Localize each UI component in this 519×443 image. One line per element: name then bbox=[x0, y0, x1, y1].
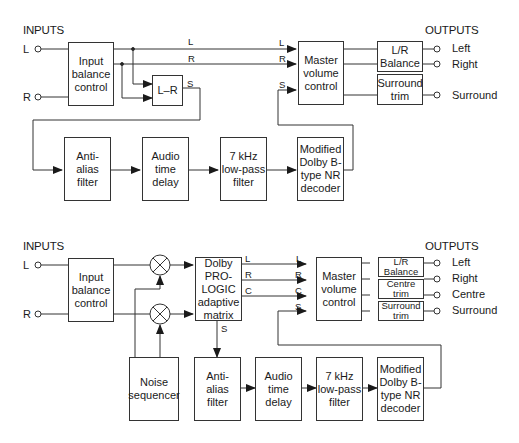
top-lowpass-block: 7 kHz low-pass filter bbox=[220, 137, 267, 201]
bottom-inputs-header: INPUTS bbox=[23, 240, 64, 252]
bottom-master-volume-block: Master volume control bbox=[316, 257, 362, 321]
bottom-master-l-label: L bbox=[296, 254, 301, 264]
top-inputs-header: INPUTS bbox=[23, 24, 64, 36]
bottom-nr-decoder-block: Modified Dolby B- type NR decoder bbox=[377, 357, 424, 421]
bottom-master-c-label: C bbox=[295, 286, 302, 296]
bottom-prologic-matrix-block: Dolby PRO- LOGIC adaptive matrix bbox=[195, 257, 242, 321]
bottom-input-r-label: R bbox=[23, 308, 31, 320]
top-output-right: Right bbox=[452, 58, 478, 70]
top-output-left: Left bbox=[452, 42, 470, 54]
top-l-minus-r-block: L–R bbox=[152, 75, 183, 106]
bottom-noise-sequencer-block: Noise sequencer bbox=[129, 357, 179, 421]
top-signal-r: R bbox=[188, 54, 195, 64]
input-r-terminal-icon bbox=[35, 94, 41, 100]
input-l-terminal-icon bbox=[35, 46, 41, 52]
bottom-anti-alias-block: Anti- alias filter bbox=[194, 357, 241, 421]
bottom-input-l-label: L bbox=[23, 259, 29, 271]
top-master-s-label: S bbox=[279, 80, 285, 90]
top-nr-decoder-block: Modified Dolby B- type NR decoder bbox=[297, 137, 344, 201]
bottom-audio-delay-block: Audio time delay bbox=[255, 357, 302, 421]
top-master-volume-block: Master volume control bbox=[298, 41, 344, 105]
bottom-signal-l: L bbox=[245, 254, 250, 264]
bottom-lowpass-block: 7 kHz low-pass filter bbox=[316, 357, 363, 421]
top-master-l-label: L bbox=[279, 38, 284, 48]
top-signal-s: S bbox=[187, 79, 193, 89]
top-input-r-label: R bbox=[23, 91, 31, 103]
bottom-signal-c: C bbox=[245, 286, 252, 296]
bottom-master-r-label: R bbox=[295, 270, 302, 280]
top-signal-l: L bbox=[188, 37, 193, 47]
bottom-signal-r: R bbox=[245, 270, 252, 280]
top-input-balance-block: Input balance control bbox=[68, 42, 114, 106]
top-master-r-label: R bbox=[279, 54, 286, 64]
bottom-output-centre: Centre bbox=[452, 288, 485, 300]
top-output-surround: Surround bbox=[452, 89, 497, 101]
top-outputs-header: OUTPUTS bbox=[425, 24, 479, 36]
bottom-centre-trim-block: Centre trim bbox=[378, 279, 424, 299]
top-lr-balance-block: L/R Balance bbox=[377, 41, 423, 72]
bottom-output-left: Left bbox=[452, 256, 470, 268]
top-surround-trim-block: Surround trim bbox=[377, 74, 423, 105]
bottom-output-right: Right bbox=[452, 272, 478, 284]
bottom-outputs-header: OUTPUTS bbox=[425, 240, 479, 252]
bottom-lr-balance-block: L/R Balance bbox=[378, 257, 424, 277]
bottom-input-balance-block: Input balance control bbox=[68, 258, 114, 322]
bottom-output-surround: Surround bbox=[452, 304, 497, 316]
bottom-master-s-label: S bbox=[295, 302, 301, 312]
bottom-signal-s: S bbox=[221, 324, 227, 334]
top-anti-alias-block: Anti- alias filter bbox=[64, 137, 111, 201]
top-audio-delay-block: Audio time delay bbox=[142, 137, 189, 201]
top-input-l-label: L bbox=[23, 43, 29, 55]
bottom-surround-trim-block: Surround trim bbox=[378, 301, 424, 321]
